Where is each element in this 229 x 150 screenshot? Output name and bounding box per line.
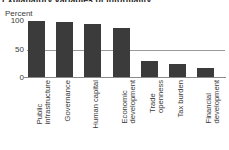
y-tick-label: 0 [20, 74, 24, 82]
x-label-slot: Human capital [83, 80, 111, 148]
x-label-slot: Economicdevelopment [112, 80, 140, 148]
bar[interactable] [28, 21, 45, 78]
bar-slot [168, 21, 196, 78]
x-axis-tick-label-line: Tax burden [177, 80, 185, 118]
x-axis-tick-label-line: infrastructure [44, 80, 52, 124]
bar-chart-figure: Explanatory variables of informality Per… [0, 0, 229, 150]
x-axis-tick-label-line: development [214, 80, 222, 123]
x-axis-tick-label-line: Governance [64, 80, 72, 121]
bar[interactable] [113, 28, 130, 78]
x-axis-tick-label: Financialdevelopment [205, 80, 222, 123]
y-tick-label: 50 [15, 46, 24, 54]
x-axis-tick-label: Tax burden [177, 80, 185, 118]
x-label-slot: Publicinfrastructure [27, 80, 55, 148]
x-label-slot: Financialdevelopment [196, 80, 224, 148]
y-tick-label: 100 [11, 17, 24, 25]
bar-slot [83, 21, 111, 78]
bar[interactable] [84, 24, 101, 78]
x-label-slot: Tax burden [168, 80, 196, 148]
x-axis-tick-label: Tradeopenness [149, 80, 166, 113]
bar-slot [140, 21, 168, 78]
x-axis-tick-label-line: development [129, 80, 137, 123]
bar-slot [55, 21, 83, 78]
x-axis-tick-label: Publicinfrastructure [36, 80, 53, 124]
x-label-slot: Tradeopenness [140, 80, 168, 148]
x-axis-category-labels: PublicinfrastructureGovernanceHuman capi… [27, 80, 225, 148]
bar[interactable] [141, 61, 158, 78]
plot-area: 050100 [27, 21, 225, 78]
bar-series [27, 21, 225, 78]
bar[interactable] [169, 64, 186, 78]
x-axis-baseline [24, 77, 226, 78]
x-axis-tick-label: Economicdevelopment [121, 80, 138, 123]
chart-title: Explanatory variables of informality [2, 0, 217, 2]
bar[interactable] [56, 22, 73, 78]
x-label-slot: Governance [55, 80, 83, 148]
bar-slot [196, 21, 224, 78]
bar-slot [27, 21, 55, 78]
bar-slot [112, 21, 140, 78]
x-axis-tick-label-line: Human capital [92, 80, 100, 129]
x-axis-tick-label: Governance [64, 80, 72, 121]
x-axis-tick-label-line: openness [157, 80, 165, 113]
x-axis-tick-label: Human capital [92, 80, 100, 129]
